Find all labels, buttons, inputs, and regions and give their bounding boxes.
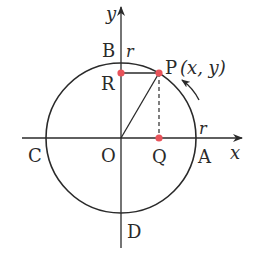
point-r-dot [117, 69, 124, 76]
x-axis-label: x [230, 142, 240, 163]
label-c: C [28, 145, 42, 166]
y-axis-label: y [105, 3, 117, 24]
label-r-on-x: r [199, 119, 208, 138]
radius-op [121, 73, 159, 138]
label-p-coords: (x, y) [180, 57, 226, 78]
label-q: Q [152, 146, 167, 167]
point-q-dot [155, 134, 162, 141]
label-p: P [165, 57, 177, 78]
unit-circle-diagram: y x B r R P (x, y) r C O Q A D [0, 0, 261, 265]
label-o: O [101, 145, 116, 166]
label-d: D [127, 221, 141, 242]
label-a: A [197, 146, 212, 167]
point-p-dot [155, 69, 162, 76]
label-r: R [101, 73, 115, 94]
label-r-on-y: r [126, 42, 135, 61]
label-b: B [102, 40, 115, 61]
